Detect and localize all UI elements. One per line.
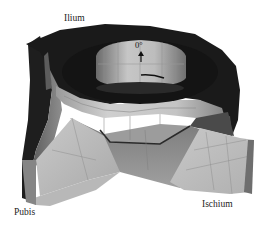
pubis-label: Pubis: [14, 208, 35, 218]
mesh-rendering: [0, 0, 268, 232]
acetabulum-mesh-figure: Ilium 0° Pubis Ischium: [0, 0, 268, 232]
ischium-label: Ischium: [202, 200, 233, 210]
zero-degree-label: 0°: [135, 41, 143, 50]
ilium-label: Ilium: [64, 14, 85, 24]
